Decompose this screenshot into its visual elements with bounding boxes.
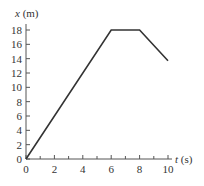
x-tick-label: 10 [163, 163, 175, 175]
x-axis-label: t (s) [175, 153, 193, 166]
x-ticks: 0246810 [23, 155, 174, 175]
y-tick-label: 2 [17, 139, 23, 151]
y-tick-label: 4 [17, 124, 23, 136]
y-ticks: 024681012141618 [11, 24, 30, 165]
x-axis-variable: t [175, 153, 179, 165]
y-tick-label: 12 [11, 67, 22, 79]
x-tick-label: 4 [80, 163, 86, 175]
x-tick-label: 0 [23, 163, 29, 175]
y-tick-label: 18 [11, 24, 23, 36]
x-tick-label: 8 [137, 163, 143, 175]
position-time-chart: 024681012141618 0246810 x (m) t (s) [0, 0, 204, 186]
x-tick-label: 6 [108, 163, 114, 175]
y-tick-label: 14 [11, 53, 23, 65]
y-axis-unit: (m) [23, 7, 39, 20]
y-axis-variable: x [14, 7, 20, 19]
y-tick-label: 16 [11, 38, 23, 50]
x-axis-unit: (s) [181, 153, 193, 166]
y-axis-label: x (m) [14, 7, 39, 20]
y-tick-label: 8 [17, 96, 23, 108]
y-tick-label: 10 [11, 81, 23, 93]
x-tick-label: 2 [52, 163, 58, 175]
position-line [26, 30, 168, 159]
axes [26, 24, 172, 159]
y-tick-label: 0 [17, 153, 23, 165]
y-tick-label: 6 [17, 110, 23, 122]
